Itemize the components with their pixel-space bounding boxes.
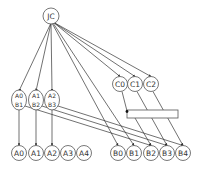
svg-text:A2: A2 xyxy=(48,92,56,99)
edge-jc-to-a0b1 xyxy=(19,23,51,91)
svg-text:B1: B1 xyxy=(129,149,139,158)
svg-text:A0: A0 xyxy=(14,149,24,158)
edge-c0-to-box xyxy=(122,92,127,112)
node-a2: A2 xyxy=(45,146,60,161)
svg-text:B2: B2 xyxy=(146,149,156,158)
node-b1: B1 xyxy=(127,146,142,161)
svg-text:B3: B3 xyxy=(162,149,172,158)
thread-dependency-diagram: JCC0C1C2A0B1A1B2A2B3A0A1A2A3A4B0B1B2B3B4 xyxy=(0,0,207,171)
edge-jc-to-c1 xyxy=(53,22,135,77)
svg-text:A4: A4 xyxy=(79,149,89,158)
node-c1: C1 xyxy=(128,77,143,92)
edge-jc-to-c0 xyxy=(53,22,120,77)
svg-text:JC: JC xyxy=(46,12,54,21)
node-a1: A1 xyxy=(29,146,44,161)
svg-text:A3: A3 xyxy=(63,149,73,158)
node-a4: A4 xyxy=(77,146,92,161)
svg-text:C2: C2 xyxy=(146,80,156,89)
svg-text:B3: B3 xyxy=(48,101,56,108)
edge-jc-to-c2 xyxy=(53,22,151,77)
svg-text:C0: C0 xyxy=(115,80,125,89)
svg-text:B0: B0 xyxy=(113,149,123,158)
svg-text:B4: B4 xyxy=(178,149,188,158)
node-a3: A3 xyxy=(61,146,76,161)
node-pair-a1b2: A1B2 xyxy=(29,90,44,110)
node-b4: B4 xyxy=(176,146,191,161)
node-b2: B2 xyxy=(144,146,159,161)
lock-dot xyxy=(126,110,129,113)
nodes: JCC0C1C2A0B1A1B2A2B3A0A1A2A3A4B0B1B2B3B4 xyxy=(12,8,191,161)
node-c0: C0 xyxy=(113,77,128,92)
node-a0: A0 xyxy=(12,146,27,161)
svg-text:B2: B2 xyxy=(32,101,40,108)
svg-text:A0: A0 xyxy=(15,92,23,99)
node-pair-a0b1: A0B1 xyxy=(12,90,27,110)
lock-box xyxy=(127,110,178,118)
node-b0: B0 xyxy=(111,146,126,161)
node-b3: B3 xyxy=(160,146,175,161)
svg-text:B1: B1 xyxy=(15,101,23,108)
svg-text:A1: A1 xyxy=(31,149,41,158)
svg-text:A2: A2 xyxy=(47,149,57,158)
edge-jc-to-a2b3 xyxy=(51,23,52,91)
node-pair-a2b3: A2B3 xyxy=(45,90,60,110)
edge-jc-to-a1b2 xyxy=(36,23,51,91)
svg-text:C1: C1 xyxy=(130,80,140,89)
svg-text:A1: A1 xyxy=(32,92,40,99)
node-jc: JC xyxy=(43,8,59,24)
node-c2: C2 xyxy=(144,77,159,92)
